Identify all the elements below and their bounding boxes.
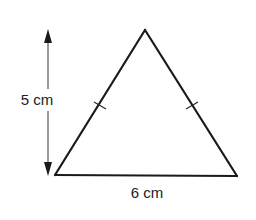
triangle-diagram: 5 cm 6 cm: [0, 0, 256, 220]
triangle-left-side: [55, 30, 145, 175]
arrow-up-icon: [44, 29, 52, 43]
triangle-base: [55, 175, 237, 176]
triangle-right-side: [145, 30, 237, 176]
arrow-down-icon: [44, 162, 52, 176]
base-label: 6 cm: [131, 184, 164, 201]
height-label: 5 cm: [21, 91, 54, 108]
